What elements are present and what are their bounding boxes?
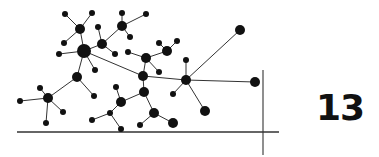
graph-node	[119, 10, 125, 16]
graph-node	[89, 10, 95, 16]
graph-node	[60, 109, 66, 115]
graph-node	[156, 40, 162, 46]
graph-node	[97, 39, 107, 49]
graph-node	[112, 51, 118, 57]
axis-lines	[17, 70, 279, 155]
graph-node	[168, 118, 178, 128]
graph-node	[250, 77, 260, 87]
graph-node	[162, 46, 172, 56]
page-number: 13	[312, 88, 368, 128]
graph-node	[117, 21, 127, 31]
graph-node	[62, 11, 68, 17]
network-diagram	[0, 0, 379, 157]
graph-node	[56, 51, 62, 57]
graph-edges	[20, 13, 255, 129]
graph-node	[137, 122, 143, 128]
graph-node	[174, 38, 180, 44]
graph-node	[43, 120, 49, 126]
graph-node	[91, 93, 97, 99]
graph-edge	[186, 30, 240, 80]
graph-node	[143, 11, 149, 17]
graph-node	[43, 93, 53, 103]
graph-node	[149, 108, 159, 118]
graph-node	[138, 71, 148, 81]
graph-edge	[186, 80, 255, 82]
graph-node	[127, 34, 133, 40]
graph-node	[125, 49, 131, 55]
graph-node	[181, 75, 191, 85]
graph-node	[118, 126, 124, 132]
graph-node	[235, 25, 245, 35]
graph-node	[156, 69, 162, 75]
graph-node	[77, 44, 91, 58]
graph-node	[139, 87, 149, 97]
graph-edge	[48, 77, 77, 98]
graph-node	[113, 84, 119, 90]
graph-node	[75, 24, 85, 34]
graph-edge	[143, 76, 186, 80]
graph-node	[200, 106, 210, 116]
graph-node	[116, 97, 126, 107]
graph-node	[89, 117, 95, 123]
graph-node	[17, 98, 23, 104]
graph-node	[37, 85, 43, 91]
graph-node	[107, 110, 113, 116]
graph-node	[183, 57, 189, 63]
graph-node	[141, 53, 151, 63]
graph-nodes	[17, 10, 260, 132]
graph-node	[72, 72, 82, 82]
graph-edge	[186, 80, 205, 111]
graph-node	[61, 40, 67, 46]
graph-node	[170, 91, 176, 97]
graph-node	[92, 67, 98, 73]
graph-node	[95, 24, 101, 30]
